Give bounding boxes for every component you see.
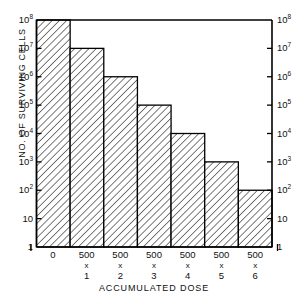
bar-chart: NO. OF SURVIVING CELLS 10810710610510410… xyxy=(0,0,308,302)
bar xyxy=(137,105,171,247)
x-axis-title: ACCUMULATED DOSE xyxy=(36,283,272,293)
bar xyxy=(171,134,205,248)
bar xyxy=(238,190,272,247)
bars-layer xyxy=(37,20,273,247)
bar xyxy=(104,77,138,247)
bar xyxy=(70,48,104,247)
bar xyxy=(37,20,71,247)
bar xyxy=(205,162,239,247)
